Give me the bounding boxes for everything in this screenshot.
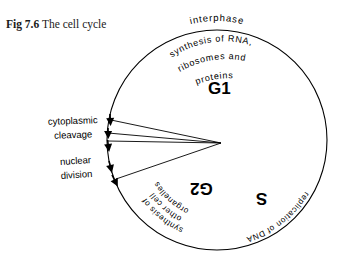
label-cytoplasmic-cleavage-line1: cytoplasmic [40, 113, 106, 129]
label-g1-line2: ribosomes and [176, 51, 247, 74]
label-s-line1: replication of DNA [245, 190, 311, 244]
arrow-nuclear-division-bottom [112, 175, 116, 183]
label-g1-line2-path: ribosomes and [176, 51, 247, 74]
wedge-line-bottom [116, 143, 221, 179]
label-interphase: interphase [188, 12, 245, 26]
arrow-nuclear-division-top [109, 161, 111, 169]
wedge-line-top [111, 120, 221, 143]
phase-letter-s: S [256, 188, 267, 208]
cell-cycle-circle [107, 30, 327, 250]
label-nuclear-division: nuclear division [45, 152, 107, 184]
label-cytoplasmic-cleavage-line2: cleavage [40, 127, 106, 143]
label-s-line1-path: replication of DNA [245, 190, 311, 244]
phase-letter-g1: G1 [208, 79, 231, 99]
arrow-cytokinesis-bottom [108, 140, 109, 148]
phase-letter-g2: G2 [190, 178, 213, 198]
label-cytoplasmic-cleavage: cytoplasmic cleavage [40, 113, 107, 143]
figure-stage: Fig 7.6 The cell cycle [0, 0, 345, 269]
wedge-lines [108, 120, 221, 179]
curved-labels: interphase synthesis of RNA, ribosomes a… [140, 12, 311, 244]
label-interphase-path: interphase [188, 12, 245, 26]
